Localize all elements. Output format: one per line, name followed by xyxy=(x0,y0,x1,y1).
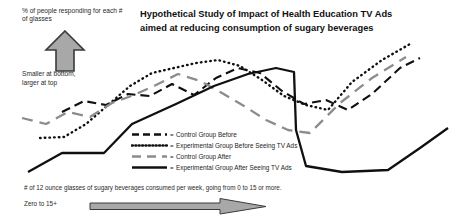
series-experimental-group-before xyxy=(40,44,410,138)
legend-swatch-solid-black: = xyxy=(131,162,175,173)
chart-figure: % of people responding for each # of gla… xyxy=(0,0,456,219)
legend-label: Experimental Group After Seeing TV Ads xyxy=(176,164,292,171)
x-axis-caption: # of 12 ounce glasses of sugary beverage… xyxy=(24,183,444,192)
legend-label: Control Group Before xyxy=(176,131,237,138)
legend-swatch-dashed-gray: = xyxy=(131,151,175,162)
right-arrow-icon xyxy=(88,197,268,217)
legend-item-experimental-group-before: = Experimental Group Before Seeing TV Ad… xyxy=(131,140,356,151)
x-axis-range-label: Zero to 15+ xyxy=(24,200,57,207)
legend-swatch-dotted-black: = xyxy=(131,140,175,151)
x-axis-range-text: Zero to 15+ xyxy=(24,200,57,207)
legend-label: Control Group After xyxy=(176,153,231,160)
x-axis-caption-text: # of 12 ounce glasses of sugary beverage… xyxy=(24,184,282,191)
svg-text:=: = xyxy=(170,131,174,138)
chart-legend: = Control Group Before = Experimental Gr… xyxy=(131,129,356,173)
legend-item-experimental-group-after: = Experimental Group After Seeing TV Ads xyxy=(131,162,356,173)
legend-swatch-dashed-black: = xyxy=(131,129,175,140)
svg-text:=: = xyxy=(170,164,174,171)
series-control-group-after xyxy=(22,57,406,133)
legend-label: Experimental Group Before Seeing TV Ads xyxy=(176,142,297,149)
legend-item-control-group-after: = Control Group After xyxy=(131,151,356,162)
svg-text:=: = xyxy=(170,142,174,149)
svg-text:=: = xyxy=(170,153,174,160)
legend-item-control-group-before: = Control Group Before xyxy=(131,129,356,140)
